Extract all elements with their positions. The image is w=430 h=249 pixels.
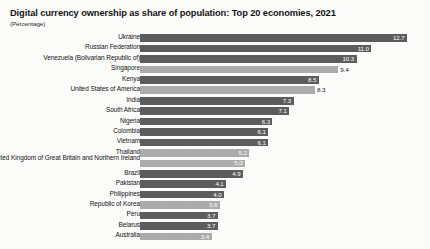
bar-row: United Kingdom of Great Britain and Nort…: [0, 158, 430, 168]
bar: [140, 76, 319, 84]
bar: [140, 107, 289, 115]
bar-value-label: 6.1: [257, 129, 268, 136]
bar-category-label: Ukraine: [0, 33, 140, 41]
bar-track: 4.9: [140, 170, 426, 178]
bar-track: 7.3: [140, 97, 426, 105]
bar-value-label: 10.3: [342, 56, 356, 63]
bar-row: Republic of Korea3.8: [0, 200, 430, 210]
bar: [140, 170, 243, 178]
bar: [140, 45, 371, 53]
bar-chart-plot-area: Ukraine12.7Russian Federation11.0Venezue…: [0, 33, 430, 245]
bar: [140, 97, 294, 105]
bar-value-label: 4.0: [213, 192, 224, 199]
bar-value-label: 4.1: [215, 181, 226, 188]
bar-track: 8.5: [140, 76, 426, 84]
bar-value-label: 5.0: [234, 160, 245, 167]
bar-track: 6.1: [140, 139, 426, 147]
bar-track: 7.1: [140, 107, 426, 115]
bar: [140, 118, 272, 126]
bar: [140, 160, 245, 168]
bar-track: 4.1: [140, 180, 426, 188]
bar-track: 9.4: [140, 66, 426, 74]
bar: [140, 128, 268, 136]
bar-row: India7.3: [0, 96, 430, 106]
bar: [140, 180, 226, 188]
bar-value-label: 6.1: [257, 140, 268, 147]
bar-value-label: 6.3: [262, 119, 273, 126]
chart-title: Digital currency ownership as share of p…: [10, 8, 422, 19]
bar-track: 5.0: [140, 160, 426, 168]
bar: [140, 149, 249, 157]
bar-track: 12.7: [140, 34, 426, 42]
bar-value-label: 11.0: [358, 46, 372, 53]
bar-category-label: Russian Federation: [0, 43, 140, 51]
bar-track: 6.1: [140, 128, 426, 136]
bar-category-label: Belarus: [0, 221, 140, 229]
bar-row: Russian Federation11.0: [0, 43, 430, 53]
bar: [140, 66, 338, 74]
bar-value-label: 8.3: [315, 87, 326, 94]
bar-value-label: 3.7: [207, 213, 218, 220]
bar-category-label: Republic of Korea: [0, 200, 140, 208]
bar-track: 11.0: [140, 45, 426, 53]
bar: [140, 139, 268, 147]
bar-row: Kenya8.5: [0, 75, 430, 85]
bar-value-label: 7.3: [283, 98, 294, 105]
bar-row: Vietnam6.1: [0, 137, 430, 147]
bar-row: Belarus3.7: [0, 221, 430, 231]
bar-value-label: 4.9: [232, 171, 243, 178]
bar-track: 6.3: [140, 118, 426, 126]
bar-row: Peru3.7: [0, 210, 430, 220]
bar-category-label: United Kingdom of Great Britain and Nort…: [0, 154, 140, 161]
bar-category-label: South Africa: [0, 106, 140, 114]
bar-value-label: 8.5: [308, 77, 319, 84]
bar-category-label: Pakistan: [0, 179, 140, 187]
bar-row: Australia3.4: [0, 231, 430, 241]
bar-category-label: Singapore: [0, 64, 140, 72]
bar-category-label: Philippines: [0, 190, 140, 198]
bar-category-label: Brazil: [0, 169, 140, 177]
bar-row: Colombia6.1: [0, 127, 430, 137]
bar: [140, 34, 407, 42]
bar-value-label: 5.2: [239, 150, 250, 157]
bar-row: South Africa7.1: [0, 106, 430, 116]
chart-header: Digital currency ownership as share of p…: [10, 8, 422, 28]
bar-track: 3.8: [140, 201, 426, 209]
chart-subtitle: (Percentage): [10, 20, 422, 28]
bar-row: Brazil4.9: [0, 169, 430, 179]
bar-row: Singapore9.4: [0, 64, 430, 74]
bar-track: 3.7: [140, 212, 426, 220]
bar-row: United States of America8.3: [0, 85, 430, 95]
bar: [140, 201, 220, 209]
bar-track: 3.4: [140, 233, 426, 241]
bar-category-label: Nigeria: [0, 117, 140, 125]
bar-row: Ukraine12.7: [0, 33, 430, 43]
bar-category-label: Colombia: [0, 127, 140, 135]
bar-track: 4.0: [140, 191, 426, 199]
bar-category-label: United States of America: [0, 85, 140, 93]
bar: [140, 191, 224, 199]
bar-category-label: Kenya: [0, 75, 140, 83]
bar-row: Nigeria6.3: [0, 117, 430, 127]
bar-track: 3.7: [140, 222, 426, 230]
bar-value-label: 7.1: [278, 108, 289, 115]
bar-category-label: Vietnam: [0, 137, 140, 145]
bar-value-label: 12.7: [393, 35, 407, 42]
bar-category-label: Australia: [0, 231, 140, 239]
bar-row: Pakistan4.1: [0, 179, 430, 189]
bar-track: 8.3: [140, 86, 426, 94]
bar-track: 10.3: [140, 55, 426, 63]
bar: [140, 86, 315, 94]
bar-row: Venezuela (Bolivarian Republic of)10.3: [0, 54, 430, 64]
bar: [140, 55, 357, 63]
bar-row: Philippines4.0: [0, 190, 430, 200]
bar-value-label: 3.7: [207, 223, 218, 230]
bar-value-label: 9.4: [338, 67, 349, 74]
bar-track: 5.2: [140, 149, 426, 157]
bar-category-label: Peru: [0, 210, 140, 218]
bar-category-label: Venezuela (Bolivarian Republic of): [0, 54, 140, 62]
chart-figure: Digital currency ownership as share of p…: [0, 0, 430, 249]
bar-value-label: 3.4: [201, 234, 212, 241]
bar-category-label: India: [0, 96, 140, 104]
bar-value-label: 3.8: [209, 202, 220, 209]
